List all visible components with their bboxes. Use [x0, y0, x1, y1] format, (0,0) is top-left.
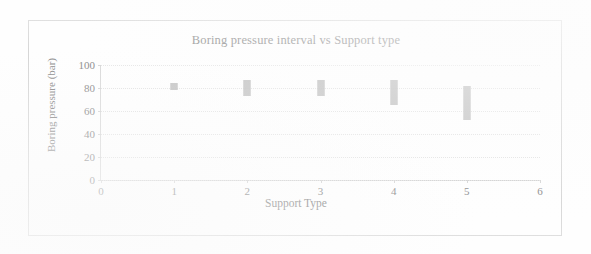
gridline-y-40 [101, 134, 540, 135]
x-tick-mark-2 [247, 180, 248, 183]
y-tick-label-100: 100 [79, 59, 96, 71]
gridline-y-100 [101, 65, 540, 66]
scanned-page: Boring pressure interval vs Support type… [0, 0, 591, 254]
y-tick-mark-100 [98, 65, 101, 66]
y-tick-label-60: 60 [84, 105, 95, 117]
y-axis-title: Boring pressure (bar) [45, 45, 57, 165]
y-tick-label-20: 20 [84, 151, 95, 163]
x-tick-label-1: 1 [171, 185, 177, 197]
plot-area: 0204060801000123456 [100, 65, 540, 181]
interval-marker-2 [244, 80, 251, 96]
x-tick-label-6: 6 [537, 185, 543, 197]
interval-marker-4 [390, 80, 397, 105]
y-tick-mark-40 [98, 134, 101, 135]
gridline-y-20 [101, 157, 540, 158]
x-tick-label-3: 3 [318, 185, 324, 197]
x-tick-mark-6 [540, 180, 541, 183]
x-tick-mark-4 [394, 180, 395, 183]
x-tick-label-2: 2 [245, 185, 251, 197]
interval-marker-3 [317, 80, 324, 96]
x-tick-label-4: 4 [391, 185, 397, 197]
y-tick-label-80: 80 [84, 82, 95, 94]
chart-figure-frame: Boring pressure interval vs Support type… [28, 20, 562, 236]
y-tick-mark-60 [98, 111, 101, 112]
chart-title: Boring pressure interval vs Support type [29, 33, 563, 48]
x-tick-mark-3 [321, 180, 322, 183]
y-tick-mark-80 [98, 88, 101, 89]
x-tick-label-0: 0 [98, 185, 104, 197]
y-tick-label-0: 0 [90, 174, 96, 186]
x-tick-mark-5 [467, 180, 468, 183]
y-tick-label-40: 40 [84, 128, 95, 140]
interval-marker-1 [171, 83, 178, 90]
interval-marker-5 [463, 86, 470, 121]
y-tick-mark-20 [98, 157, 101, 158]
x-tick-label-5: 5 [464, 185, 470, 197]
gridline-y-60 [101, 111, 540, 112]
x-axis-title: Support Type [29, 197, 563, 209]
x-tick-mark-0 [101, 180, 102, 183]
x-tick-mark-1 [174, 180, 175, 183]
